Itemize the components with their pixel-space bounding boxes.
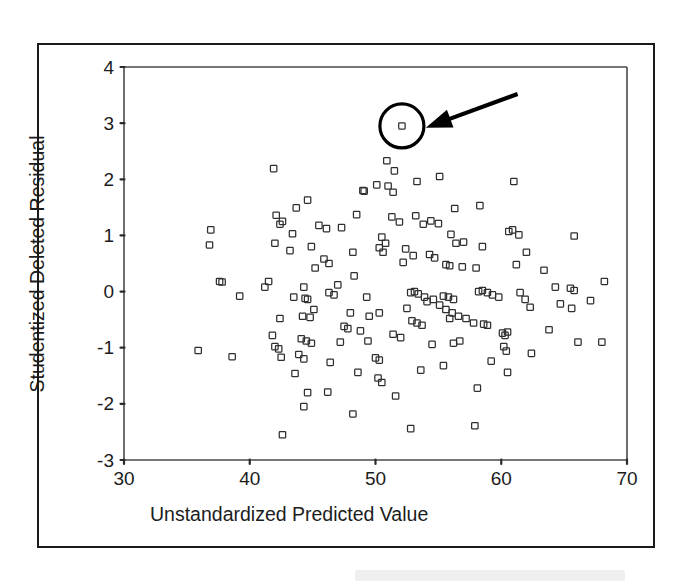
data-point-marker (270, 165, 276, 171)
data-point-marker (292, 370, 298, 376)
data-point-marker (287, 247, 293, 253)
data-point-marker (552, 284, 558, 290)
data-point-marker (365, 338, 371, 344)
x-tick-label: 40 (239, 468, 260, 489)
data-point-marker (299, 313, 305, 319)
data-point-marker (278, 354, 284, 360)
data-point-marker (575, 339, 581, 345)
data-point-marker (474, 385, 480, 391)
data-point-marker (396, 219, 402, 225)
data-point-marker (353, 211, 359, 217)
x-tick-label: 70 (616, 468, 637, 489)
data-point-marker (513, 261, 519, 267)
data-point-marker (392, 393, 398, 399)
data-point-marker (304, 389, 310, 395)
x-tick-label: 60 (491, 468, 512, 489)
data-point-marker (414, 178, 420, 184)
data-point-marker (272, 240, 278, 246)
data-point-marker (408, 425, 414, 431)
data-point-marker (460, 239, 466, 245)
data-point-marker (347, 310, 353, 316)
data-point-marker (385, 183, 391, 189)
data-point-marker (357, 328, 363, 334)
data-point-marker (523, 249, 529, 255)
data-point-marker (428, 218, 434, 224)
data-point-marker (488, 358, 494, 364)
data-point-marker (384, 158, 390, 164)
data-point-marker (350, 411, 356, 417)
data-point-marker (376, 310, 382, 316)
x-tick-label: 30 (113, 468, 134, 489)
data-point-marker (293, 205, 299, 211)
data-point-marker (453, 240, 459, 246)
data-point-marker (279, 432, 285, 438)
y-tick-label: 3 (103, 113, 114, 134)
data-point-marker (301, 403, 307, 409)
data-point-marker (350, 249, 356, 255)
data-point-marker (436, 173, 442, 179)
data-point-marker (421, 294, 427, 300)
data-point-marker (429, 341, 435, 347)
outlier-highlight-circle (380, 104, 424, 148)
data-point-marker (455, 313, 461, 319)
data-point-marker (301, 284, 307, 290)
data-point-marker (557, 301, 563, 307)
data-point-marker (528, 350, 534, 356)
data-points-group (195, 123, 608, 438)
data-point-marker (504, 369, 510, 375)
data-point-marker (470, 320, 476, 326)
data-point-marker (364, 294, 370, 300)
axes-group (124, 67, 627, 460)
data-point-marker (601, 278, 607, 284)
data-point-marker (325, 389, 331, 395)
y-tick-label: -1 (97, 337, 114, 358)
data-point-marker (410, 252, 416, 258)
data-point-marker (400, 259, 406, 265)
data-point-marker (312, 265, 318, 271)
y-axis-title: Studentized Deleted Residual (26, 136, 48, 393)
data-point-marker (229, 354, 235, 360)
plot-canvas: 43210-1-2-33040506070 Unstandardized Pre… (0, 0, 690, 586)
data-point-marker (448, 231, 454, 237)
data-point-marker (351, 273, 357, 279)
data-point-marker (338, 224, 344, 230)
data-point-marker (399, 123, 405, 129)
data-point-marker (195, 347, 201, 353)
data-point-marker (391, 168, 397, 174)
data-point-marker (337, 339, 343, 345)
data-point-marker (402, 246, 408, 252)
y-tick-label: -3 (97, 450, 114, 471)
data-point-marker (206, 242, 212, 248)
data-point-marker (390, 189, 396, 195)
data-point-marker (397, 334, 403, 340)
data-point-marker (587, 297, 593, 303)
data-point-marker (571, 233, 577, 239)
data-point-marker (443, 306, 449, 312)
data-point-marker (382, 240, 388, 246)
data-point-marker (307, 314, 313, 320)
data-point-marker (496, 294, 502, 300)
data-point-marker (355, 369, 361, 375)
data-point-marker (479, 243, 485, 249)
scatter-plot-figure: 43210-1-2-33040506070 Unstandardized Pre… (0, 0, 690, 586)
data-point-marker (436, 302, 442, 308)
data-point-marker (404, 305, 410, 311)
outlier-pointer-arrow-shaft (446, 94, 518, 120)
data-point-marker (430, 296, 436, 302)
data-point-marker (389, 214, 395, 220)
data-point-marker (366, 313, 372, 319)
data-point-marker (450, 340, 456, 346)
data-point-marker (316, 222, 322, 228)
data-point-marker (599, 339, 605, 345)
data-point-marker (457, 338, 463, 344)
data-point-marker (236, 293, 242, 299)
data-point-marker (527, 304, 533, 310)
x-tick-label: 50 (365, 468, 386, 489)
data-point-marker (501, 343, 507, 349)
data-point-marker (413, 213, 419, 219)
data-point-marker (546, 327, 552, 333)
data-point-marker (477, 202, 483, 208)
data-point-marker (541, 267, 547, 273)
data-point-marker (323, 225, 329, 231)
data-point-marker (335, 282, 341, 288)
